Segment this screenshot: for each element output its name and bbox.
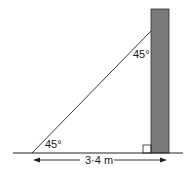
angle-top-label: 45° bbox=[133, 48, 150, 60]
wall bbox=[151, 9, 169, 153]
right-angle-marker bbox=[143, 145, 151, 153]
ladder-diagram: 45° 45° 3·4 m bbox=[0, 0, 191, 173]
distance-label: 3·4 m bbox=[85, 154, 113, 166]
angle-bottom-label: 45° bbox=[45, 138, 62, 150]
